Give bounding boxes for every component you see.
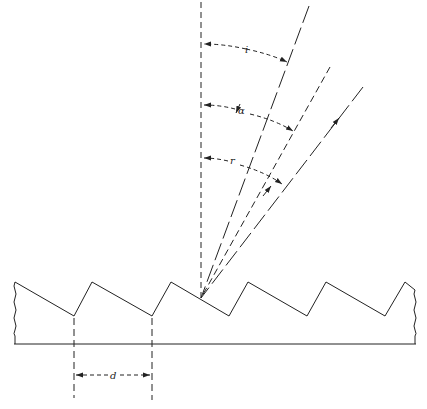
- label-i: i: [245, 44, 248, 55]
- grating-diagram: i α r d: [0, 0, 427, 409]
- angle-i-arc-left: [204, 44, 246, 49]
- grating-profile: [15, 282, 415, 316]
- angle-r-arc-left: [204, 158, 228, 161]
- angle-r-arc: [240, 165, 282, 184]
- grating-right-edge: [414, 290, 416, 344]
- angle-i-arc: [246, 49, 287, 62]
- grating-left-edge: [14, 282, 16, 344]
- incident-ray: [201, 6, 309, 298]
- angle-alpha-arc: [250, 114, 293, 131]
- facet-normal: [201, 67, 330, 298]
- diffracted-arrow-icon-1: [331, 118, 339, 128]
- diffracted-arrow-icon-2: [263, 186, 271, 196]
- label-r: r: [230, 155, 236, 166]
- label-alpha: α: [238, 105, 245, 116]
- angle-alpha-arc-left: [204, 105, 235, 109]
- label-d: d: [110, 370, 116, 381]
